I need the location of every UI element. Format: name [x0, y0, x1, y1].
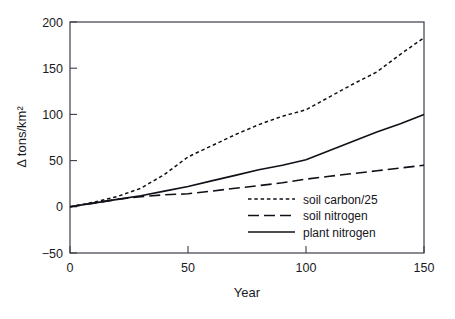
legend-label-plant-nitrogen: plant nitrogen [303, 226, 376, 240]
y-tick-label-0: 0 [56, 200, 63, 214]
y-axis-title: Δ tons/km² [14, 106, 29, 168]
legend: soil carbon/25 soil nitrogen plant nitro… [248, 193, 378, 240]
y-axis-tick-labels: 200 150 100 50 0 −50 [42, 16, 63, 261]
y-tick-label-50: 50 [49, 154, 63, 168]
x-tick-label-50: 50 [181, 261, 195, 275]
x-axis-tick-labels: 0 50 100 150 [67, 261, 435, 275]
x-tick-label-150: 150 [414, 261, 435, 275]
x-tick-label-0: 0 [67, 261, 74, 275]
x-axis-title: Year [234, 285, 261, 300]
y-tick-label-200: 200 [42, 16, 63, 30]
y-tick-label-minus50: −50 [42, 247, 63, 261]
legend-item-soil-nitrogen[interactable]: soil nitrogen [248, 209, 368, 223]
legend-item-soil-carbon[interactable]: soil carbon/25 [248, 193, 378, 207]
y-tick-label-100: 100 [42, 108, 63, 122]
legend-item-plant-nitrogen[interactable]: plant nitrogen [248, 226, 376, 240]
y-tick-label-150: 150 [42, 62, 63, 76]
x-tick-label-100: 100 [296, 261, 317, 275]
x-axis-ticks [70, 246, 424, 253]
legend-label-soil-carbon: soil carbon/25 [303, 193, 378, 207]
plot-frame [70, 22, 424, 253]
y-axis-ticks [70, 22, 77, 253]
legend-label-soil-nitrogen: soil nitrogen [303, 209, 368, 223]
line-chart: 200 150 100 50 0 −50 0 50 100 150 Δ tons… [0, 0, 455, 319]
chart-page: 200 150 100 50 0 −50 0 50 100 150 Δ tons… [0, 0, 455, 319]
series-soil-carbon [70, 38, 424, 207]
